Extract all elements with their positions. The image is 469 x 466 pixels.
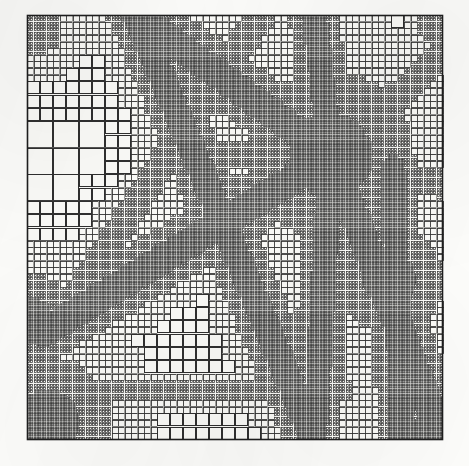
amr-figure <box>0 0 469 466</box>
adaptive-mesh-grid <box>0 0 469 466</box>
